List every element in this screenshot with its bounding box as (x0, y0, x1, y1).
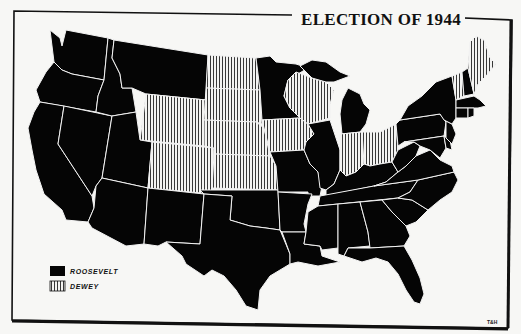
state-mississippi (304, 204, 338, 250)
state-maine (468, 36, 496, 94)
legend: ROOSEVELT DEWEY (50, 266, 118, 291)
legend-swatch-roosevelt (50, 266, 65, 276)
legend-item-roosevelt: ROOSEVELT (50, 266, 118, 276)
map-credit: T&H (487, 319, 498, 325)
legend-label-dewey: DEWEY (70, 283, 99, 290)
legend-label-roosevelt: ROOSEVELT (70, 268, 118, 275)
state-florida (344, 246, 424, 304)
map-title: ELECTION OF 1944 (297, 10, 465, 30)
state-colorado (148, 142, 214, 194)
state-rhode-island (468, 108, 474, 118)
state-new-mexico (144, 188, 204, 246)
state-wyoming (140, 94, 206, 146)
state-connecticut (456, 108, 468, 118)
state-north-dakota (206, 55, 260, 90)
state-south-dakota (204, 88, 262, 124)
legend-swatch-dewey (50, 281, 65, 291)
legend-item-dewey: DEWEY (50, 281, 99, 291)
state-kansas (212, 154, 278, 190)
state-michigan-lower (340, 88, 370, 134)
state-nebraska (204, 120, 270, 156)
election-map: ROOSEVELT DEWEY T&H (0, 0, 521, 334)
state-arizona (88, 178, 148, 246)
